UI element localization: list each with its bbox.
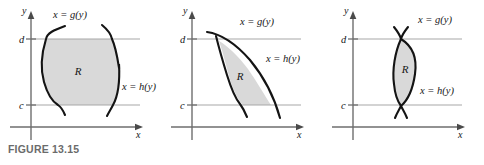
x-axis-label: x bbox=[457, 129, 463, 140]
panel-2: x = g(y) x = h(y) R d c y x bbox=[161, 0, 322, 140]
panel-3-plot: x = g(y) x = h(y) R d c y x bbox=[322, 0, 483, 140]
y-axis-label: y bbox=[21, 5, 27, 16]
y-axis-label: y bbox=[182, 5, 188, 16]
figure-caption: FIGURE 13.15 bbox=[8, 143, 79, 155]
label-curve-g: x = g(y) bbox=[239, 16, 274, 28]
tick-label-c: c bbox=[180, 100, 185, 111]
tick-label-c: c bbox=[19, 100, 24, 111]
label-region: R bbox=[401, 63, 409, 75]
label-curve-g: x = g(y) bbox=[52, 9, 87, 21]
label-curve-h: x = h(y) bbox=[121, 81, 156, 93]
y-axis-arrowhead bbox=[350, 11, 357, 19]
tick-label-c: c bbox=[341, 100, 346, 111]
y-axis-arrowhead bbox=[28, 11, 35, 19]
label-curve-h: x = h(y) bbox=[265, 53, 300, 65]
label-region: R bbox=[236, 70, 244, 82]
panel-1-plot: x = g(y) x = h(y) R d c y x bbox=[0, 0, 161, 140]
tick-label-d: d bbox=[19, 34, 25, 45]
panel-row: x = g(y) x = h(y) R d c y x bbox=[0, 0, 484, 140]
panel-2-plot: x = g(y) x = h(y) R d c y x bbox=[161, 0, 322, 140]
tick-label-d: d bbox=[341, 34, 347, 45]
label-curve-g: x = g(y) bbox=[417, 14, 452, 26]
tick-label-d: d bbox=[180, 34, 186, 45]
x-axis-label: x bbox=[296, 129, 302, 140]
figure-13-15: x = g(y) x = h(y) R d c y x bbox=[0, 0, 484, 165]
label-region: R bbox=[74, 65, 82, 77]
panel-1: x = g(y) x = h(y) R d c y x bbox=[0, 0, 161, 140]
y-axis-arrowhead bbox=[189, 11, 196, 19]
label-curve-h: x = h(y) bbox=[419, 85, 454, 97]
x-axis-label: x bbox=[135, 129, 141, 140]
y-axis-label: y bbox=[343, 5, 349, 16]
panel-3: x = g(y) x = h(y) R d c y x bbox=[322, 0, 483, 140]
